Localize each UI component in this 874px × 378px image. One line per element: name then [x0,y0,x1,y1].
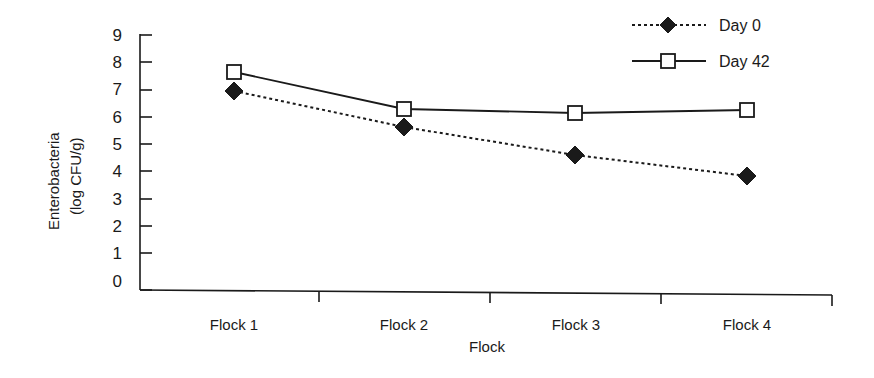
data-point-marker [227,65,241,79]
series-day-42 [227,65,754,120]
y-axis-title-line2: (log CFU/g) [67,137,84,215]
x-tick-label-flock-3: Flock 3 [552,316,600,333]
data-point-marker [225,82,243,100]
x-axis-line [140,290,832,295]
legend-item-day-42: Day 42 [632,53,770,70]
y-tick-label: 5 [113,135,122,154]
y-tick-label: 8 [113,53,122,72]
y-tick-label: 6 [113,108,122,127]
data-point-marker [738,167,756,185]
y-tick-label: 3 [113,190,122,209]
legend-marker-square [661,54,675,68]
legend-marker-diamond [660,17,676,33]
y-tick-label: 9 [113,26,122,45]
y-tick-label: 1 [113,244,122,263]
series-line-day-0 [234,91,747,176]
chart-figure: Enterobacteria (log CFU/g) 9 8 7 6 5 4 3… [0,0,874,378]
legend-label-day-42: Day 42 [719,53,770,70]
legend-item-day-0: Day 0 [632,17,761,34]
y-tick-label: 2 [113,217,122,236]
x-tick-label-flock-4: Flock 4 [723,316,771,333]
y-tick-label: 0 [113,272,122,291]
y-tick-label: 7 [113,80,122,99]
y-axis-title: Enterobacteria (log CFU/g) [45,132,84,230]
data-point-marker [568,106,582,120]
y-tick-label: 4 [113,162,122,181]
data-point-marker [395,118,413,136]
y-axis-title-line1: Enterobacteria [45,132,62,230]
y-axis-tick-labels: 9 8 7 6 5 4 3 2 1 0 [113,26,122,291]
data-point-marker [397,102,411,116]
series-day-0 [225,82,756,185]
y-axis-ticks [140,35,152,290]
x-axis-title: Flock [469,338,505,355]
x-tick-label-flock-2: Flock 2 [380,316,428,333]
x-axis-tick-labels: Flock 1 Flock 2 Flock 3 Flock 4 [210,316,771,333]
legend-label-day-0: Day 0 [719,17,761,34]
chart-legend: Day 0 Day 42 [632,17,770,70]
line-chart: Enterobacteria (log CFU/g) 9 8 7 6 5 4 3… [0,0,874,378]
data-point-marker [740,103,754,117]
data-point-marker [566,146,584,164]
x-tick-label-flock-1: Flock 1 [210,316,258,333]
